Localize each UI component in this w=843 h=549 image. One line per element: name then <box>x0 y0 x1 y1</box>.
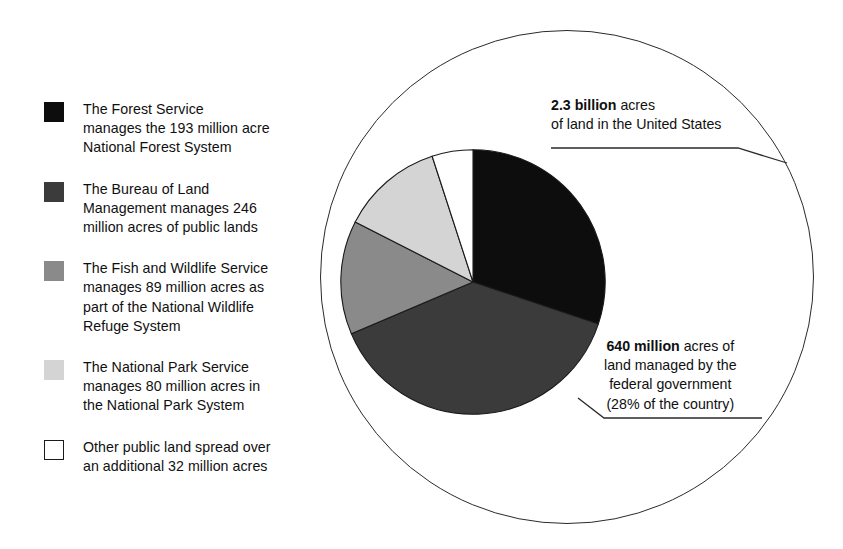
callout-total-land: 2.3 billion acres of land in the United … <box>551 96 721 134</box>
legend-label-national-park-service: The National Park Service manages 80 mil… <box>83 358 260 416</box>
pie-chart <box>340 149 606 415</box>
legend: The Forest Service manages the 193 milli… <box>44 100 312 498</box>
callout-total-land-unit: acres <box>616 97 655 113</box>
legend-label-forest-service: The Forest Service manages the 193 milli… <box>83 100 270 158</box>
callout-federal-land-line4: (28% of the country) <box>606 396 734 412</box>
legend-line: million acres of public lands <box>83 219 258 235</box>
legend-swatch-other-public-land <box>44 440 64 460</box>
legend-label-fish-and-wildlife-service: The Fish and Wildlife Service manages 89… <box>83 259 268 336</box>
callout-total-land-value: 2.3 billion <box>551 97 616 113</box>
legend-line: the National Park System <box>83 397 244 413</box>
legend-item-fish-and-wildlife-service: The Fish and Wildlife Service manages 89… <box>44 259 312 336</box>
legend-swatch-bureau-of-land-management <box>44 182 64 202</box>
legend-line: part of the National Wildlife <box>83 299 254 315</box>
legend-line: Management manages 246 <box>83 200 257 216</box>
callout-total-land-text: 2.3 billion acres of land in the United … <box>551 96 721 134</box>
legend-line: an additional 32 million acres <box>83 458 267 474</box>
callout-federal-land-unit: acres of <box>680 338 734 354</box>
legend-line: The National Park Service <box>83 359 249 375</box>
callout-federal-land-text: 640 million acres of land managed by the… <box>604 337 737 414</box>
legend-line: The Bureau of Land <box>83 181 209 197</box>
callout-total-land-line2: of land in the United States <box>551 116 721 132</box>
legend-line: Other public land spread over <box>83 439 271 455</box>
legend-line: Refuge System <box>83 318 181 334</box>
legend-swatch-national-park-service <box>44 360 64 380</box>
legend-item-national-park-service: The National Park Service manages 80 mil… <box>44 358 312 416</box>
legend-swatch-fish-and-wildlife-service <box>44 261 64 281</box>
infographic-root: The Forest Service manages the 193 milli… <box>0 0 843 549</box>
legend-item-other-public-land: Other public land spread over an additio… <box>44 438 312 476</box>
pie-chart-svg <box>340 149 606 415</box>
callout-federal-land-value: 640 million <box>606 338 679 354</box>
legend-line: The Forest Service <box>83 101 204 117</box>
legend-swatch-forest-service <box>44 102 64 122</box>
legend-line: manages the 193 million acre <box>83 120 270 136</box>
callout-federal-land: 640 million acres of land managed by the… <box>604 337 737 414</box>
pie-slices <box>341 150 605 414</box>
legend-line: The Fish and Wildlife Service <box>83 260 268 276</box>
legend-item-bureau-of-land-management: The Bureau of Land Management manages 24… <box>44 180 312 238</box>
callout-federal-land-line3: federal government <box>609 376 731 392</box>
callout-federal-land-line2: land managed by the <box>604 357 737 373</box>
legend-line: manages 89 million acres as <box>83 279 264 295</box>
legend-label-other-public-land: Other public land spread over an additio… <box>83 438 271 476</box>
legend-line: manages 80 million acres in <box>83 378 260 394</box>
legend-item-forest-service: The Forest Service manages the 193 milli… <box>44 100 312 158</box>
legend-line: National Forest System <box>83 139 232 155</box>
legend-label-bureau-of-land-management: The Bureau of Land Management manages 24… <box>83 180 258 238</box>
